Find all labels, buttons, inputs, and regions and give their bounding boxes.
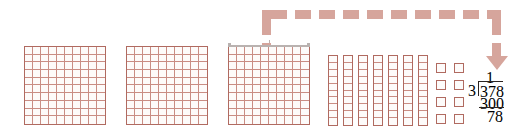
flat-cell — [65, 62, 73, 70]
flat-cell — [253, 70, 261, 78]
flat-cell — [261, 93, 269, 101]
flat-cell — [25, 109, 33, 117]
flat-cell — [159, 85, 167, 93]
flat-cell — [49, 55, 57, 63]
flat-cell — [301, 70, 309, 78]
flat-cell — [65, 93, 73, 101]
flat-cell — [301, 109, 309, 117]
rod-cell — [344, 84, 352, 91]
flat-cell — [159, 93, 167, 101]
flat-cell — [159, 101, 167, 109]
rod-cell — [419, 70, 427, 77]
flat-cell — [73, 93, 81, 101]
flat-cell — [191, 55, 199, 63]
flat-cell — [277, 55, 285, 63]
rod-cell — [419, 111, 427, 118]
flat-cell — [261, 109, 269, 117]
rod-cell — [359, 84, 367, 91]
flat-cell — [25, 55, 33, 63]
flat-cell — [183, 55, 191, 63]
flat-cell — [229, 70, 237, 78]
tens-rod-6 — [403, 55, 413, 126]
flat-cell — [73, 85, 81, 93]
flat-cell — [167, 78, 175, 86]
ones-unit-2 — [454, 63, 464, 73]
ones-unit-1 — [436, 63, 446, 73]
rod-cell — [374, 84, 382, 91]
rod-cell — [359, 56, 367, 63]
rod-cell — [329, 104, 337, 111]
flat-cell — [199, 55, 207, 63]
flat-cell — [89, 93, 97, 101]
flat-cell — [167, 62, 175, 70]
flat-cell — [245, 85, 253, 93]
flat-cell — [293, 78, 301, 86]
flat-cell — [89, 101, 97, 109]
flat-cell — [127, 62, 135, 70]
flat-cell — [269, 109, 277, 117]
flat-cell — [25, 70, 33, 78]
flat-cell — [253, 47, 261, 55]
flat-cell — [127, 116, 135, 124]
flat-cell — [183, 62, 191, 70]
flat-cell — [41, 55, 49, 63]
flat-cell — [191, 70, 199, 78]
flat-cell — [73, 47, 81, 55]
flat-cell — [151, 116, 159, 124]
flat-cell — [49, 62, 57, 70]
flat-cell — [175, 85, 183, 93]
flat-cell — [237, 109, 245, 117]
flat-cell — [143, 109, 151, 117]
flat-cell — [127, 85, 135, 93]
rod-cell — [329, 77, 337, 84]
flat-cell — [269, 93, 277, 101]
flat-cell — [175, 101, 183, 109]
flat-cell — [73, 101, 81, 109]
flat-cell — [159, 70, 167, 78]
flat-cell — [33, 47, 41, 55]
flat-cell — [25, 85, 33, 93]
flat-cell — [199, 70, 207, 78]
rod-cell — [359, 91, 367, 98]
flat-cell — [175, 78, 183, 86]
ones-unit-5 — [436, 97, 446, 107]
flat-cell — [57, 55, 65, 63]
flat-cell — [191, 78, 199, 86]
flat-cell — [81, 93, 89, 101]
rod-cell — [374, 70, 382, 77]
flat-cell — [293, 55, 301, 63]
tens-rod-1 — [328, 55, 338, 126]
flat-cell — [33, 101, 41, 109]
rod-cell — [419, 118, 427, 125]
flat-cell — [229, 109, 237, 117]
flat-cell — [73, 78, 81, 86]
arrow-segment-vertical-left — [262, 19, 271, 45]
flat-cell — [151, 78, 159, 86]
flat-cell — [167, 85, 175, 93]
flat-cell — [25, 78, 33, 86]
flat-cell — [143, 62, 151, 70]
rod-cell — [419, 97, 427, 104]
flat-cell — [301, 62, 309, 70]
rod-cell — [344, 97, 352, 104]
group-brace-cap-right — [307, 43, 310, 46]
flat-cell — [65, 70, 73, 78]
rod-cell — [389, 97, 397, 104]
flat-cell — [253, 55, 261, 63]
flat-cell — [229, 85, 237, 93]
flat-cell — [81, 78, 89, 86]
tens-rod-7 — [418, 55, 428, 126]
rod-cell — [344, 118, 352, 125]
flat-cell — [261, 55, 269, 63]
flat-cell — [261, 101, 269, 109]
flat-cell — [49, 78, 57, 86]
flat-cell — [301, 78, 309, 86]
flat-cell — [41, 62, 49, 70]
flat-cell — [245, 78, 253, 86]
flat-cell — [229, 62, 237, 70]
rod-cell — [419, 91, 427, 98]
flat-cell — [199, 101, 207, 109]
division-bracket-side — [478, 81, 479, 96]
flat-cell — [253, 109, 261, 117]
flat-cell — [49, 47, 57, 55]
